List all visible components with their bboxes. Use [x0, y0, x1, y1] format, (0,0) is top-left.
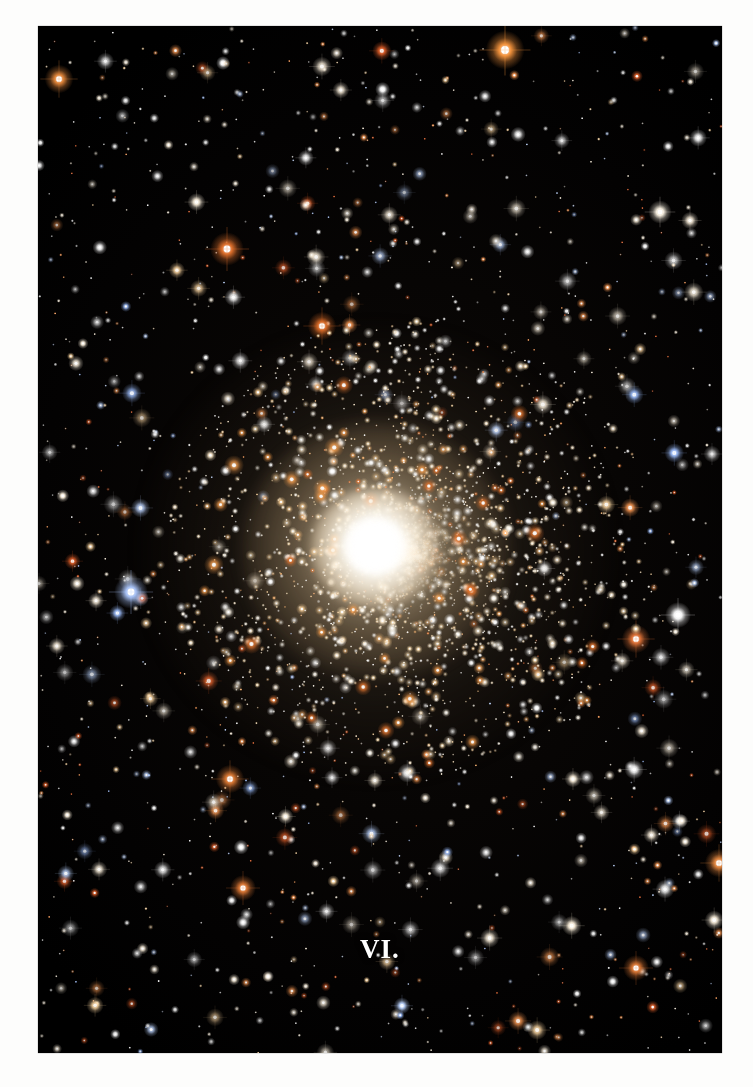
cluster-core-saturated: [344, 518, 406, 574]
astrophotograph-frame: VI.: [38, 26, 722, 1053]
plate-page: VI.: [0, 0, 753, 1087]
plate-number-caption: VI.: [38, 934, 722, 965]
